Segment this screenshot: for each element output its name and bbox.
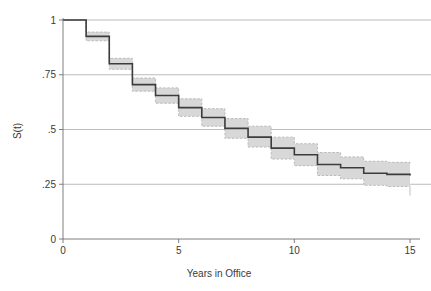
x-tick-label: 5: [176, 245, 182, 256]
x-tick-label: 0: [60, 245, 66, 256]
y-tick-label: 0: [50, 234, 56, 245]
y-axis-title: S(t): [12, 123, 23, 139]
y-tick-label: .75: [42, 69, 56, 80]
survival-chart-canvas: 1.75.5.250 051015 Years in Office S(t): [0, 0, 431, 291]
y-tick-label: .5: [48, 124, 57, 135]
x-tick-label: 15: [404, 245, 416, 256]
x-axis-title: Years in Office: [187, 268, 252, 279]
x-tick-label: 10: [289, 245, 301, 256]
survival-chart-figure: 1.75.5.250 051015 Years in Office S(t): [0, 0, 431, 291]
y-tick-label: .25: [42, 179, 56, 190]
y-tick-label: 1: [50, 15, 56, 26]
